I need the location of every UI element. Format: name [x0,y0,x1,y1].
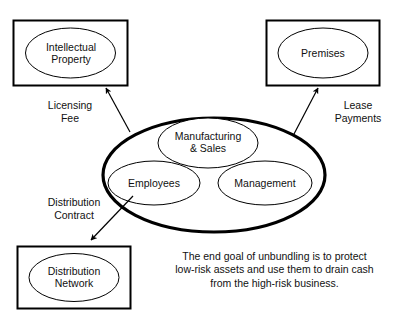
distribution-network-ellipse [29,254,119,302]
employees-ellipse [108,161,200,205]
diagram-caption: The end goal of unbundling is to protect… [157,250,392,290]
lease-payments-arrow [294,88,318,134]
manufacturing-and-sales-ellipse [158,118,258,168]
licensing-fee-arrow [106,88,130,132]
intellectual-property-ellipse [26,28,116,78]
premises-ellipse [278,28,368,78]
management-ellipse [218,161,312,205]
lease-payments-label: Lease Payments [322,99,394,124]
distribution-contract-label: Distribution Contract [33,196,115,221]
unbundling-diagram: Intellectual Property Premises Distribut… [0,0,395,321]
licensing-fee-label: Licensing Fee [34,99,106,124]
